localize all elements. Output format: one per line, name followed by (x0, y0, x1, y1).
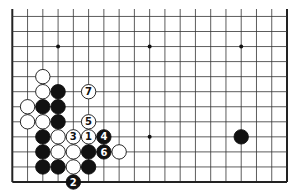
stone-circle (51, 145, 65, 159)
black-stone[interactable] (36, 145, 50, 159)
stone-circle (81, 145, 95, 159)
stone-circle (51, 160, 65, 174)
black-stone[interactable] (36, 130, 50, 144)
white-stone[interactable] (66, 160, 80, 174)
move-number-label: 7 (85, 86, 92, 97)
white-stone[interactable] (36, 85, 50, 99)
white-stone[interactable] (36, 115, 50, 129)
black-stone[interactable] (81, 160, 95, 174)
black-stone[interactable] (51, 115, 65, 129)
black-stone[interactable] (51, 100, 65, 114)
move-number-label: 1 (85, 131, 92, 142)
white-stone[interactable] (51, 130, 65, 144)
stone-circle (234, 130, 248, 144)
stone-circle (36, 130, 50, 144)
stone-circle (51, 85, 65, 99)
white-stone[interactable] (20, 115, 34, 129)
stone-circle (51, 130, 65, 144)
stone-circle (66, 145, 80, 159)
stone-circle (36, 69, 50, 83)
white-stone[interactable]: 5 (81, 115, 95, 129)
white-stone[interactable]: 3 (66, 130, 80, 144)
black-stone[interactable] (51, 85, 65, 99)
stone-circle (20, 100, 34, 114)
stone-circle (20, 115, 34, 129)
stone-circle (66, 160, 80, 174)
star-point (239, 45, 243, 49)
star-point (148, 135, 152, 139)
black-stone[interactable] (81, 145, 95, 159)
black-stone[interactable] (36, 160, 50, 174)
white-stone[interactable] (51, 145, 65, 159)
move-number-label: 6 (100, 147, 107, 158)
stone-circle (51, 100, 65, 114)
black-stone[interactable]: 2 (66, 175, 80, 189)
black-stone[interactable] (51, 160, 65, 174)
star-point (56, 45, 60, 49)
move-number-label: 4 (100, 131, 107, 142)
move-number-label: 5 (85, 116, 92, 127)
stone-circle (36, 115, 50, 129)
black-stone[interactable] (36, 100, 50, 114)
stone-circle (51, 115, 65, 129)
black-stone[interactable] (234, 130, 248, 144)
white-stone[interactable] (66, 145, 80, 159)
black-stone[interactable]: 6 (97, 145, 111, 159)
white-stone[interactable] (36, 69, 50, 83)
black-stone[interactable]: 4 (97, 130, 111, 144)
stone-circle (36, 100, 50, 114)
white-stone[interactable]: 7 (81, 85, 95, 99)
go-board[interactable]: 7531462 (0, 0, 293, 194)
white-stone[interactable]: 1 (81, 130, 95, 144)
stone-circle (112, 145, 126, 159)
stone-circle (36, 145, 50, 159)
star-point (148, 45, 152, 49)
stone-circle (81, 160, 95, 174)
stone-circle (36, 160, 50, 174)
move-number-label: 2 (70, 177, 77, 188)
white-stone[interactable] (20, 100, 34, 114)
white-stone[interactable] (112, 145, 126, 159)
stone-circle (36, 85, 50, 99)
move-number-label: 3 (70, 131, 77, 142)
